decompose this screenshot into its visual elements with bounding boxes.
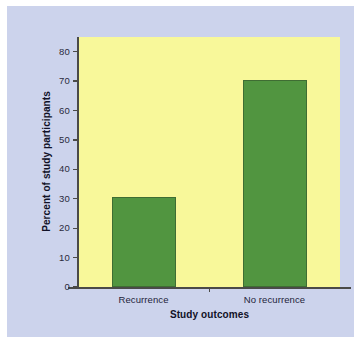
y-tick-label: 60	[59, 106, 73, 116]
y-tick-mark	[73, 80, 78, 81]
x-tick-label-no-recurrence: No recurrence	[215, 294, 335, 305]
x-tick-mark	[209, 288, 210, 292]
x-tick-label-recurrence: Recurrence	[84, 294, 204, 305]
y-tick-label: 10	[59, 253, 73, 263]
figure-card: 01020304050607080 RecurrenceNo recurrenc…	[7, 6, 354, 337]
y-tick-mark	[73, 198, 78, 199]
y-tick-label: 40	[59, 164, 73, 174]
y-tick-mark	[73, 169, 78, 170]
y-tick-mark	[73, 286, 78, 287]
y-axis-title: Percent of study participants	[41, 52, 52, 272]
y-tick-label: 80	[59, 47, 73, 57]
bar-recurrence	[112, 197, 176, 287]
y-tick-label: 30	[59, 194, 73, 204]
x-axis-title: Study outcomes	[68, 309, 351, 320]
y-tick-mark	[73, 228, 78, 229]
y-tick-label: 20	[59, 223, 73, 233]
y-tick-label: 50	[59, 135, 73, 145]
y-tick-mark	[73, 257, 78, 258]
y-tick-mark	[73, 110, 78, 111]
y-tick-label: 70	[59, 76, 73, 86]
y-tick-label: 0	[65, 282, 73, 292]
y-axis-line	[77, 37, 79, 288]
y-tick-mark	[73, 139, 78, 140]
bar-no-recurrence	[243, 80, 307, 287]
y-tick-mark	[73, 51, 78, 52]
y-tick-0: 0	[7, 282, 78, 292]
